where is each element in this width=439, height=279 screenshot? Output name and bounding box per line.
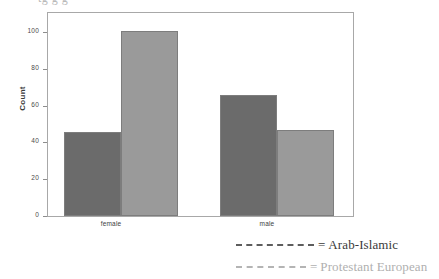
y-tick-mark-100 — [43, 32, 47, 33]
bar-female-arab-islamic[interactable] — [64, 132, 121, 216]
chart-legend: = Arab-Islamic = Protestant European — [236, 234, 439, 278]
y-tick-40: 40 — [0, 142, 47, 143]
bar-female-protestant-european[interactable] — [121, 31, 178, 216]
y-tick-label-80: 80 — [31, 64, 39, 71]
y-tick-label-0: 0 — [35, 211, 39, 218]
bars-layer — [48, 13, 353, 216]
y-tick-label-100: 100 — [28, 27, 39, 34]
x-axis-label-male: male — [237, 220, 297, 227]
y-tick-60: 60 — [0, 106, 47, 107]
legend-dash-icon — [236, 244, 314, 246]
y-tick-mark-60 — [43, 106, 47, 107]
y-tick-mark-0 — [43, 216, 47, 217]
legend-dash-icon — [236, 266, 306, 268]
legend-item-arab-islamic[interactable]: = Arab-Islamic — [236, 234, 439, 256]
y-tick-80: 80 — [0, 69, 47, 70]
y-tick-mark-80 — [43, 69, 47, 70]
y-tick-20: 20 — [0, 179, 47, 180]
y-tick-label-40: 40 — [31, 137, 39, 144]
legend-label-arab-islamic: Arab-Islamic — [328, 237, 398, 253]
legend-equals-sign-0: = — [318, 237, 325, 253]
bar-male-arab-islamic[interactable] — [220, 95, 277, 216]
bar-male-protestant-european[interactable] — [277, 130, 334, 216]
y-tick-mark-40 — [43, 142, 47, 143]
y-tick-label-20: 20 — [31, 174, 39, 181]
y-tick-label-60: 60 — [31, 101, 39, 108]
legend-item-protestant-european[interactable]: = Protestant European — [236, 256, 439, 278]
legend-equals-sign-1: = — [310, 259, 317, 275]
y-axis-title: Count — [18, 69, 27, 129]
x-axis-label-female: female — [81, 220, 141, 227]
legend-label-protestant-european: Protestant European — [320, 259, 427, 275]
y-tick-mark-20 — [43, 179, 47, 180]
y-tick-0: 0 — [0, 216, 47, 217]
y-tick-100: 100 — [0, 32, 47, 33]
